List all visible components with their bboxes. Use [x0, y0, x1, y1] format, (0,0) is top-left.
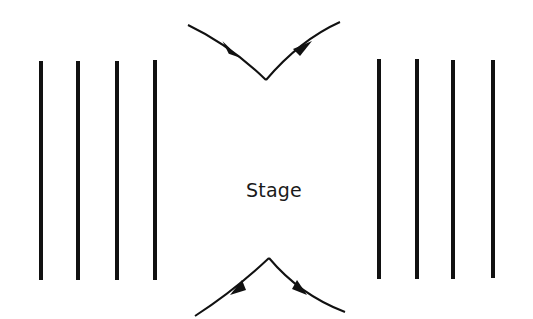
diagram-canvas: [0, 0, 533, 319]
bottom-left-arrow-icon: [230, 280, 246, 295]
left-parallel-lines: [41, 60, 155, 280]
stage-label: Stage: [246, 179, 302, 201]
top-outgoing-arrow-icon: [293, 41, 312, 56]
bottom-left-curve: [195, 258, 269, 316]
top-reflection-path: [188, 22, 340, 80]
right-parallel-lines: [379, 59, 493, 279]
bottom-reflection-path: [195, 258, 345, 316]
bottom-right-curve: [269, 258, 345, 312]
top-incoming-curve: [188, 25, 266, 80]
